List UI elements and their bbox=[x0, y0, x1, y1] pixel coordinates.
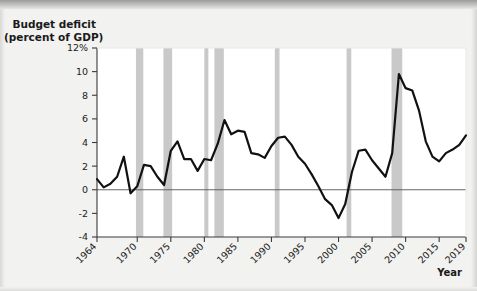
x-tick-label-7: 2000 bbox=[315, 241, 340, 266]
y-tick-label-8: 12% bbox=[67, 42, 88, 53]
y-axis-group bbox=[92, 48, 97, 237]
recession-band-2 bbox=[163, 48, 172, 237]
x-tick-label-10: 2015 bbox=[416, 241, 441, 266]
x-tick-label-2: 1975 bbox=[147, 241, 172, 266]
recession-band-3 bbox=[204, 48, 208, 237]
y-tick-label-6: 8 bbox=[82, 90, 88, 101]
x-tick-label-8: 2005 bbox=[349, 241, 374, 266]
y-tick-label-7: 10 bbox=[76, 66, 88, 77]
budget-deficit-line-chart: 1964197019751980198519901995200020052010… bbox=[0, 0, 477, 291]
x-axis-title: Year bbox=[436, 267, 462, 278]
y-tick-label-2: 0 bbox=[82, 184, 88, 195]
x-tick-label-1: 1970 bbox=[114, 241, 139, 266]
x-tick-label-0: 1964 bbox=[74, 241, 99, 266]
x-tick-label-6: 1995 bbox=[282, 241, 307, 266]
x-tick-label-4: 1985 bbox=[214, 241, 239, 266]
y-tick-labels-group: -4-2024681012% bbox=[67, 42, 88, 242]
plot-background-group bbox=[97, 48, 466, 237]
figure-page: Budget deficit (percent of GDP) 19641970… bbox=[0, 0, 477, 291]
x-tick-label-9: 2010 bbox=[382, 241, 407, 266]
y-tick-label-1: -2 bbox=[79, 208, 88, 219]
y-tick-label-5: 6 bbox=[82, 113, 88, 124]
x-tick-label-3: 1980 bbox=[181, 241, 206, 266]
y-tick-label-0: -4 bbox=[79, 231, 88, 242]
x-tick-label-11: 2019 bbox=[443, 241, 468, 266]
x-tick-label-5: 1990 bbox=[248, 241, 273, 266]
y-tick-label-4: 4 bbox=[82, 137, 88, 148]
plot-area-background bbox=[97, 48, 466, 237]
y-tick-label-3: 2 bbox=[82, 161, 88, 172]
recession-band-6 bbox=[347, 48, 352, 237]
recession-band-1 bbox=[136, 48, 143, 237]
x-tick-labels-group: 1964197019751980198519901995200020052010… bbox=[74, 241, 468, 266]
